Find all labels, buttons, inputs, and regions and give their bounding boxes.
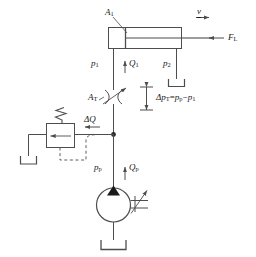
label-pressure-pp: pp [94,163,102,173]
tank-relief [21,156,37,164]
label-pressure-p2: p2 [163,59,171,69]
label-throttle-area-at: AT [88,93,97,103]
label-flow-q1: Q1 [129,59,139,69]
label-delta-p-formula: ΔpT=pp−p1 [156,93,195,103]
label-pressure-p1: p1 [91,59,99,69]
schematic-canvas [0,0,256,257]
relief-valve-body [47,124,75,148]
label-delta-q: ΔQ [84,115,96,124]
tank-return [169,79,185,87]
relief-valve-spring [56,108,67,124]
throttle-valve-symbol [103,88,126,104]
hydraulic-pump-symbol [97,186,131,223]
tank-pump [101,240,126,250]
hydraulic-circuit-diagram: A1 v FL p1 Q1 p2 AT ΔpT=pp−p1 ΔQ pp Qp [0,0,256,257]
label-piston-area-a1: A1 [105,8,114,18]
dimension-marker-delta-p [140,87,153,110]
label-flow-qp: Qp [129,163,139,173]
throttle-area-leader [99,97,104,100]
relief-outlet-line [29,135,47,157]
pump-drive-shaft [131,191,149,214]
label-velocity-v: v [197,7,201,16]
label-load-force-fl: FL [228,33,237,43]
